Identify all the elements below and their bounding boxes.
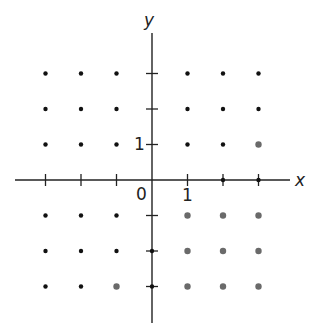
gray-lattice-dot [220, 212, 226, 218]
gray-lattice-dot [113, 283, 119, 289]
gray-lattice-dot [255, 141, 261, 147]
black-lattice-dot [79, 142, 83, 146]
black-lattice-dot [221, 142, 225, 146]
black-lattice-dot [79, 107, 83, 111]
black-lattice-dot [185, 71, 189, 75]
black-lattice-dot [221, 71, 225, 75]
gray-lattice-dot [220, 248, 226, 254]
black-lattice-dot [185, 107, 189, 111]
lattice-diagram: y x 0 1 1 [0, 0, 315, 331]
black-lattice-dot [43, 107, 47, 111]
black-lattice-dot [185, 142, 189, 146]
black-lattice-dot [256, 107, 260, 111]
black-lattice-dot [79, 249, 83, 253]
black-lattice-dot [79, 284, 83, 288]
black-lattice-dot [114, 213, 118, 217]
x-axis-label: x [294, 170, 306, 190]
black-lattice-dot [79, 71, 83, 75]
black-lattice-dot [43, 249, 47, 253]
black-lattice-dot [114, 142, 118, 146]
black-lattice-dot [221, 107, 225, 111]
gray-lattice-dot [184, 212, 190, 218]
black-lattice-dot [43, 142, 47, 146]
diagram-canvas: y x 0 1 1 [0, 0, 315, 331]
black-lattice-dot [43, 71, 47, 75]
black-lattice-dot [114, 71, 118, 75]
black-lattice-dot [43, 213, 47, 217]
black-lattice-dot [114, 107, 118, 111]
gray-lattice-dot [255, 212, 261, 218]
black-lattice-dot [221, 178, 225, 182]
origin-label: 0 [136, 184, 147, 204]
gray-lattice-dot [184, 283, 190, 289]
black-lattice-dot [256, 71, 260, 75]
gray-lattice-dot [220, 283, 226, 289]
x-unit-label: 1 [182, 185, 193, 205]
gray-lattice-dot [255, 283, 261, 289]
black-lattice-dot [150, 249, 154, 253]
gray-lattice-dot [184, 248, 190, 254]
black-lattice-dot [79, 213, 83, 217]
black-lattice-dot [256, 178, 260, 182]
gray-lattice-dot [255, 248, 261, 254]
y-axis-label: y [143, 10, 155, 30]
black-lattice-dot [114, 249, 118, 253]
y-unit-label: 1 [134, 134, 145, 154]
black-lattice-dot [43, 284, 47, 288]
black-lattice-dot [150, 284, 154, 288]
